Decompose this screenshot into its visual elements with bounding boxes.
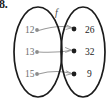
domain-label-15: 15 (25, 69, 35, 79)
codomain-label-32: 32 (85, 47, 95, 57)
domain-label-12: 12 (25, 25, 35, 35)
arrow-15-to-9 (39, 72, 72, 75)
exercise-number: 8. (0, 0, 7, 10)
codomain-dot-32 (72, 49, 77, 54)
function-label: f (55, 8, 58, 18)
arrow-12-to-26 (39, 27, 72, 31)
domain-dot-13 (35, 50, 39, 54)
domain-dot-12 (35, 28, 39, 32)
arrow-group (39, 25, 73, 75)
domain-label-13: 13 (25, 47, 35, 57)
codomain-dot-26 (72, 27, 77, 32)
codomain-label-9: 9 (87, 69, 92, 79)
arrowhead-32 (66, 48, 72, 53)
codomain-dot-9 (72, 72, 77, 77)
mapping-diagram-figure: 8. f 12 13 15 26 32 9 (0, 0, 110, 101)
domain-dot-15 (35, 72, 39, 76)
codomain-label-26: 26 (85, 25, 95, 35)
